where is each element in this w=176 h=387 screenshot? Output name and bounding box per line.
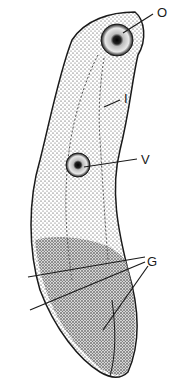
oral-sucker: [101, 24, 133, 56]
label-oral-sucker: O: [157, 6, 167, 19]
label-genital: G: [147, 255, 157, 268]
ventral-sucker: [66, 153, 90, 177]
label-ventral-sucker: V: [141, 153, 150, 166]
label-intestine: I: [124, 92, 128, 105]
fluke-illustration: [0, 0, 176, 387]
